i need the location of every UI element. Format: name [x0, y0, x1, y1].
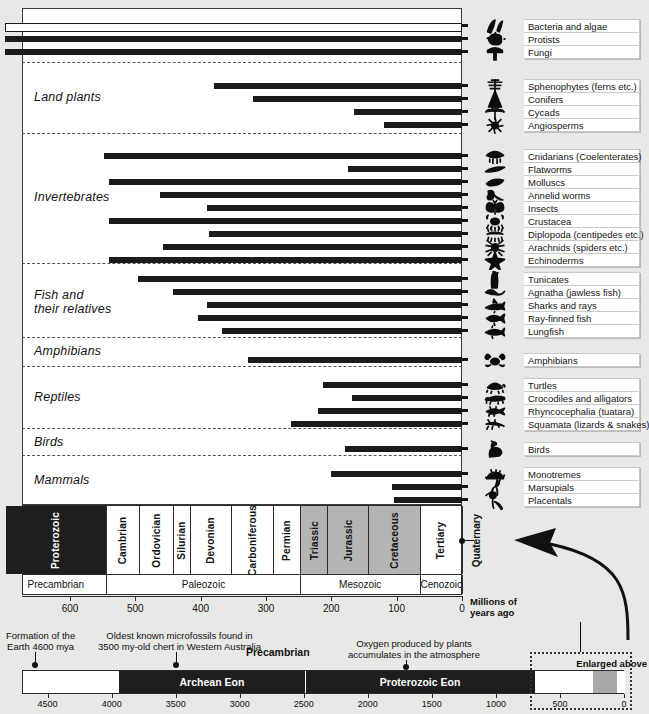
- range-bar-protist: [5, 36, 462, 42]
- range-bar-echidna: [331, 471, 462, 477]
- taxon-label-row[interactable]: Protists: [524, 32, 640, 46]
- taxon-label-row[interactable]: Lungfish: [524, 324, 640, 338]
- taxon-label-row[interactable]: Birds: [524, 442, 640, 456]
- taxon-label-row[interactable]: Flatworms: [524, 162, 640, 176]
- taxon-label-row[interactable]: Crocodiles and alligators: [524, 391, 640, 405]
- eon-annotation: Oxygen produced by plants accumulates in…: [348, 638, 480, 660]
- range-bar-spider: [163, 244, 462, 250]
- taxon-name: Annelid worms: [528, 190, 590, 201]
- group-label-fish: Fish and their relatives: [34, 288, 111, 316]
- callout-arrow-icon: [500, 512, 645, 642]
- group-separator: [22, 62, 462, 63]
- lungfish-icon: [466, 320, 524, 342]
- period-name: Silurian: [176, 521, 187, 559]
- taxon-label-row[interactable]: Squamata (lizards & snakes): [524, 417, 640, 431]
- eon-tick: [304, 694, 305, 698]
- quaternary-marker-dot: [459, 538, 465, 544]
- taxon-label-row[interactable]: Cnidarians (Coelenterates): [524, 149, 640, 163]
- annotation-dot: [32, 662, 38, 668]
- axis-tick: [397, 596, 398, 601]
- eon-annotation: Formation of the Earth 4600 mya: [6, 630, 75, 652]
- eon-tick: [368, 694, 369, 698]
- taxon-name: Sphenophytes (ferns etc.): [528, 81, 637, 92]
- taxon-label-row[interactable]: Tunicates: [524, 272, 640, 286]
- eon-segment-proterozoic: Proterozoic Eon: [305, 671, 536, 693]
- taxon-label-row[interactable]: Crustacea: [524, 214, 640, 228]
- axis-tick-label: 200: [323, 603, 340, 614]
- eon-tick: [112, 694, 113, 698]
- period-name: Cretaceous: [389, 512, 400, 568]
- taxon-label-row[interactable]: Agnatha (jawless fish): [524, 285, 640, 299]
- taxon-label-row[interactable]: Cycads: [524, 105, 640, 119]
- taxon-name: Crustacea: [528, 216, 571, 227]
- period-name: Devonian: [205, 517, 216, 564]
- annotation-stem: [35, 652, 36, 662]
- taxon-label-column: Bacteria and algaeProtistsFungiSphenophy…: [466, 8, 642, 505]
- taxon-name: Cnidarians (Coelenterates): [528, 151, 642, 162]
- taxon-label-row[interactable]: Sharks and rays: [524, 298, 640, 312]
- enlarged-above-label: Enlarged above: [576, 658, 647, 669]
- range-bar-kangaroo: [392, 484, 462, 490]
- taxon-name: Flatworms: [528, 164, 572, 175]
- axis-tick: [70, 596, 71, 601]
- range-bar-lizard: [291, 421, 462, 427]
- annotation-dot: [173, 662, 179, 668]
- taxon-label-row[interactable]: Conifers: [524, 92, 640, 106]
- range-bar-conifer: [253, 96, 462, 102]
- taxon-name: Agnatha (jawless fish): [528, 287, 621, 298]
- eon-tick-label: 3000: [230, 699, 250, 709]
- taxon-name: Angiosperms: [528, 120, 583, 131]
- taxon-label-row[interactable]: Annelid worms: [524, 188, 640, 202]
- taxon-name: Squamata (lizards & snakes): [528, 419, 649, 430]
- range-bar-centipede: [209, 231, 462, 237]
- eon-tick: [176, 694, 177, 698]
- axis-tick: [462, 596, 463, 601]
- axis-tick-label: 100: [388, 603, 405, 614]
- eon-timeline: Archean EonProterozoic Eon45004000350030…: [0, 630, 646, 714]
- range-bar-mollusc: [109, 179, 462, 185]
- axis-tick-label: 0: [459, 603, 465, 614]
- eon-tick-label: 4500: [38, 699, 58, 709]
- period-jurassic: Jurassic: [328, 506, 369, 574]
- period-cambrian: Cambrian: [107, 506, 140, 574]
- taxon-label-row[interactable]: Fungi: [524, 45, 640, 59]
- axis-tick: [201, 596, 202, 601]
- taxon-label-row[interactable]: Placentals: [524, 493, 640, 507]
- taxon-name: Sharks and rays: [528, 300, 597, 311]
- taxon-name: Lungfish: [528, 326, 564, 337]
- range-bar-flower: [384, 122, 462, 128]
- taxon-label-row[interactable]: Sphenophytes (ferns etc.): [524, 79, 640, 93]
- frog-icon: [466, 349, 524, 371]
- taxon-label-row[interactable]: Ray-finned fish: [524, 311, 640, 325]
- taxon-label-row[interactable]: Arachnids (spiders etc.): [524, 240, 640, 254]
- flower-icon: [466, 114, 524, 136]
- group-separator: [22, 263, 462, 264]
- taxon-label-row[interactable]: Molluscs: [524, 175, 640, 189]
- taxon-label-row[interactable]: Amphibians: [524, 353, 640, 367]
- taxon-label-row[interactable]: Marsupials: [524, 480, 640, 494]
- taxon-name: Crocodiles and alligators: [528, 393, 632, 404]
- range-bar-bird: [345, 446, 462, 452]
- taxon-label-row[interactable]: Monotremes: [524, 467, 640, 481]
- taxon-name: Monotremes: [528, 469, 581, 480]
- axis-tick-label: 400: [192, 603, 209, 614]
- taxon-label-row[interactable]: Bacteria and algae: [524, 19, 640, 33]
- range-bar-lamprey: [173, 289, 462, 295]
- eon-tick: [240, 694, 241, 698]
- taxon-label-row[interactable]: Turtles: [524, 378, 640, 392]
- taxon-label-row[interactable]: Rhyncocephalia (tuatara): [524, 404, 640, 418]
- taxon-name: Rhyncocephalia (tuatara): [528, 406, 634, 417]
- taxon-label-row[interactable]: Angiosperms: [524, 118, 640, 132]
- taxon-label-row[interactable]: Echinoderms: [524, 253, 640, 267]
- eon-tick: [48, 694, 49, 698]
- axis-tick-label: 600: [62, 603, 79, 614]
- group-label-amphibians: Amphibians: [34, 344, 101, 358]
- taxon-name: Echinoderms: [528, 255, 583, 266]
- era-mesozoic: Mesozoic: [301, 575, 421, 594]
- taxon-label-row[interactable]: Insects: [524, 201, 640, 215]
- taxon-name: Conifers: [528, 94, 563, 105]
- taxon-name: Cycads: [528, 107, 560, 118]
- range-bar-fungus: [5, 49, 462, 55]
- taxon-label-row[interactable]: Diplopoda (centipedes etc.): [524, 227, 640, 241]
